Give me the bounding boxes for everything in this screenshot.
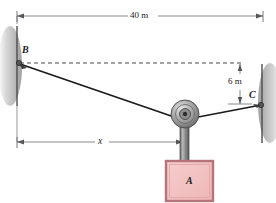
block-label-a: A bbox=[186, 176, 193, 186]
distance-dimension-label: x bbox=[98, 137, 102, 147]
cable-b-to-pulley bbox=[20, 64, 177, 118]
left-wall-hatching bbox=[0, 26, 22, 106]
point-label-b: B bbox=[22, 45, 29, 55]
span-dimension-label: 40 m bbox=[130, 11, 148, 20]
statics-figure: 40 m 6 m x B C A bbox=[0, 0, 276, 203]
cable-pulley-to-c bbox=[193, 105, 261, 118]
point-label-c: C bbox=[249, 90, 256, 100]
pulley-wheel bbox=[171, 100, 199, 128]
drop-dimension-label: 6 m bbox=[228, 77, 242, 86]
